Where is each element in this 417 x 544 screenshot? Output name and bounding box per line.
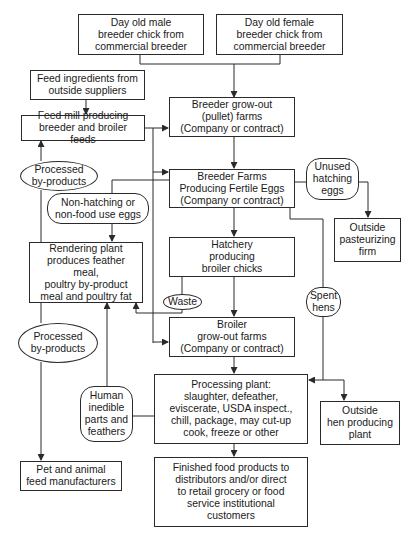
edge-male-chick-join xyxy=(140,55,280,64)
edge-spent-hens-to-outside-hen xyxy=(323,380,344,400)
feed-mill-box: Feed mill producing breeder and broiler … xyxy=(21,115,145,141)
non-hatching-eggs-box: Non-hatching or non-food use eggs xyxy=(47,193,149,224)
edge-breeder-farms-to-non-hatching xyxy=(112,180,169,193)
processed-byproducts-ellipse-2: Processed by-products xyxy=(18,323,98,363)
breeder-growout-box: Breeder grow-out (pullet) farms (Company… xyxy=(169,97,295,137)
human-inedible-box: Human inedible parts and feathers xyxy=(80,386,133,442)
outside-hen-plant-box: Outside hen producing plant xyxy=(320,401,400,445)
processed-byproducts-ellipse-1: Processed by-products xyxy=(20,161,98,191)
unused-hatching-eggs-box: Unused hatching eggs xyxy=(306,158,359,200)
rendering-plant-box: Rendering plant produces feather meal, p… xyxy=(29,242,143,303)
spent-hens-box: Spent hens xyxy=(306,287,341,317)
female-breeder-chick-box: Day old female breeder chick from commer… xyxy=(216,14,343,55)
feed-ingredients-box: Feed ingredients from outside suppliers xyxy=(30,70,145,100)
finished-food-box: Finished food products to distributors a… xyxy=(154,457,308,527)
hatchery-box: Hatchery producing broiler chicks xyxy=(169,237,295,277)
male-breeder-chick-box: Day old male breeder chick from commerci… xyxy=(78,14,204,55)
edge-unused-eggs-to-pasteurizing xyxy=(359,182,368,217)
broiler-growout-box: Broiler grow-out farms (Company or contr… xyxy=(169,317,295,357)
outside-pasteurizing-box: Outside pasteurizing firm xyxy=(334,218,401,262)
waste-ellipse: Waste xyxy=(163,294,202,310)
processing-plant-box: Processing plant: slaughter, defeather, … xyxy=(154,374,308,444)
breeder-farms-box: Breeder Farms Producing Fertile Eggs (Co… xyxy=(169,169,295,208)
pet-feed-box: Pet and animal feed manufacturers xyxy=(20,461,122,491)
